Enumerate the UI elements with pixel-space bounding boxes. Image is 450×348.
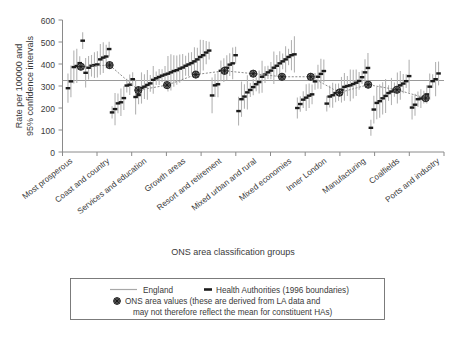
y-axis-title-line2: 95% confidence intervals bbox=[25, 35, 35, 136]
y-tick-200: 200 bbox=[41, 104, 55, 114]
y-axis-title: Rate per 100000 and 95% confidence inter… bbox=[14, 35, 35, 136]
x-axis-category-labels: Most prosperous Coast and country Servic… bbox=[21, 156, 442, 216]
ons-area-value-point bbox=[278, 73, 285, 80]
ons-area-value-point bbox=[393, 86, 400, 93]
x-axis-title: ONS area classification groups bbox=[171, 247, 295, 257]
ons-area-value-point bbox=[77, 63, 84, 70]
cat-label-services-and-education: Services and education bbox=[76, 156, 149, 216]
confidence-interval-whiskers bbox=[68, 32, 439, 135]
y-tick-100: 100 bbox=[41, 126, 55, 136]
ons-area-value-point bbox=[250, 70, 257, 77]
cat-label-resort-and-retirement: Resort and retirement bbox=[155, 156, 224, 212]
ons-area-value-point bbox=[336, 89, 343, 96]
ons-area-value-point bbox=[422, 95, 429, 102]
ons-area-value-point bbox=[307, 73, 314, 80]
y-tick-600: 600 bbox=[41, 16, 55, 26]
ons-area-value-point bbox=[365, 81, 372, 88]
ons-area-value-point bbox=[163, 82, 170, 89]
y-tick-500: 500 bbox=[41, 38, 55, 48]
cat-label-manufacturing: Manufacturing bbox=[321, 156, 368, 195]
cat-label-mixed-urban-and-rural: Mixed urban and rural bbox=[190, 156, 258, 212]
legend-ons-label-line2: may not therefore reflect the mean for c… bbox=[133, 308, 333, 317]
legend-health-authorities-label: Health Authorities (1996 boundaries) bbox=[216, 286, 349, 295]
chart-figure: 600 500 400 300 200 100 0 Rate per 10000… bbox=[0, 0, 450, 348]
y-tick-0: 0 bbox=[50, 148, 55, 158]
legend-england-label: England bbox=[143, 286, 173, 295]
ons-area-value-point bbox=[135, 87, 142, 94]
ons-area-value-point bbox=[192, 71, 199, 78]
y-axis-title-line1: Rate per 100000 and bbox=[14, 44, 24, 129]
y-tick-400: 400 bbox=[41, 60, 55, 70]
y-tick-300: 300 bbox=[41, 82, 55, 92]
ons-area-value-point bbox=[106, 62, 113, 69]
x-axis-ticks bbox=[63, 152, 445, 156]
y-axis-ticks bbox=[59, 20, 63, 152]
legend-ons-label-line1: ONS area values (these are derived from … bbox=[125, 297, 321, 306]
legend-ons-crossed-circle-icon bbox=[114, 298, 121, 305]
cat-label-coalfields: Coalfields bbox=[367, 156, 401, 185]
chart-legend: England Health Authorities (1996 boundar… bbox=[71, 279, 385, 320]
ons-area-value-point bbox=[221, 67, 228, 74]
chart-canvas: 600 500 400 300 200 100 0 Rate per 10000… bbox=[0, 0, 450, 348]
